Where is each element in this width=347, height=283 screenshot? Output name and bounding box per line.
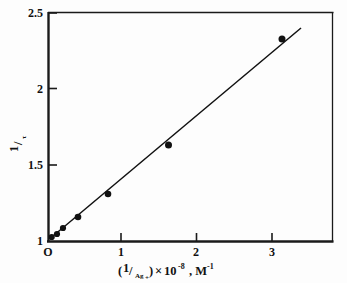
x-axis-title: ( 1 / Ag + ) × 10 -8 , M -1 (118, 261, 214, 282)
x-axis-title-exponent: -8 (178, 262, 185, 271)
x-axis-title-slash: / (128, 264, 133, 278)
x-tick-label-origin: O (43, 245, 52, 259)
x-axis-title-denominator: Ag (135, 272, 144, 280)
x-axis-title-unit-exponent: -1 (207, 262, 214, 271)
data-point (54, 231, 60, 237)
x-axis-ticks (121, 233, 272, 242)
y-axis-title-denominator: τ (20, 135, 28, 139)
data-point (279, 36, 286, 43)
data-point (105, 191, 112, 198)
y-tick-label-2: 2 (37, 82, 43, 96)
chart-figure: 2.5 2 1.5 1 O 1 2 3 1 / τ ( 1 (0, 0, 347, 283)
x-axis-title-unit: , M (189, 264, 207, 278)
x-axis-title-times: × (155, 264, 162, 278)
x-axis-title-close-paren: ) (149, 264, 153, 278)
x-axis-title-base: 10 (164, 264, 177, 278)
y-axis-title-slash: / (11, 141, 25, 146)
axis-frame (47, 12, 334, 242)
data-point (49, 234, 55, 240)
y-axis-title: 1 / τ (7, 135, 28, 152)
data-point (60, 225, 66, 231)
x-tick-label-3: 3 (269, 245, 275, 259)
y-tick-label-2_5: 2.5 (28, 6, 43, 20)
y-tick-label-1: 1 (37, 234, 43, 248)
y-axis-ticks (49, 13, 58, 165)
y-axis-title-numerator: 1 (7, 146, 21, 152)
plot-area: 2.5 2 1.5 1 O 1 2 3 1 / τ ( 1 (0, 0, 347, 283)
fit-line (50, 28, 302, 239)
x-axis-title-open-paren: ( (118, 264, 122, 278)
y-tick-label-1_5: 1.5 (28, 158, 43, 172)
data-point (165, 142, 172, 149)
data-point (75, 214, 82, 221)
x-tick-label-1: 1 (118, 245, 124, 259)
x-tick-label-2: 2 (193, 245, 199, 259)
